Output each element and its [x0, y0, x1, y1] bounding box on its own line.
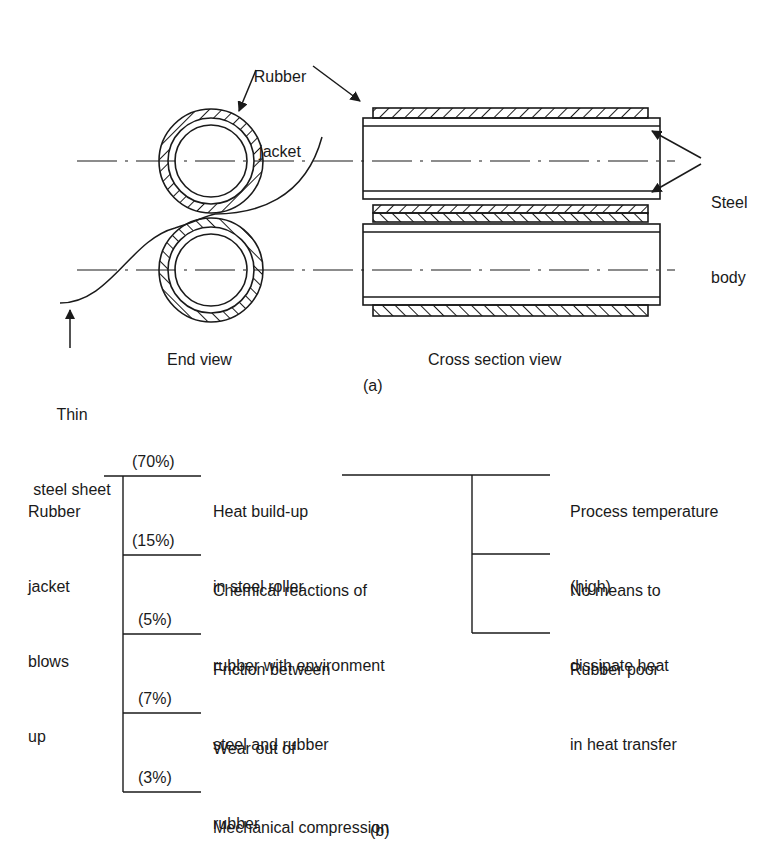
cause-pct-4: (7%) — [138, 686, 172, 711]
label-line: up — [28, 724, 80, 749]
label-line: Thin — [22, 402, 122, 427]
label-line: Chemical reactions of — [213, 578, 385, 603]
steel-body-upper — [363, 118, 660, 199]
label-line: body — [711, 265, 747, 290]
label-line: in heat transfer — [570, 732, 677, 757]
rubber-strip-top — [373, 108, 648, 118]
cause-pct-1: (70%) — [132, 449, 175, 474]
steel-body-label: Steel body — [711, 140, 747, 315]
label-line: Rubber — [250, 64, 310, 89]
label-line: Friction between — [213, 657, 330, 682]
label-line: Wear out of — [213, 736, 295, 761]
cross-section-view-label: Cross section view — [428, 347, 561, 372]
root-effect-label: Rubber jacket blows up — [28, 449, 80, 774]
rubber-jacket-label: Rubber jacket — [250, 14, 310, 189]
label-line: jacket — [250, 139, 310, 164]
label-line: Process temperature — [570, 499, 719, 524]
figure-b-caption: (b) — [370, 818, 390, 843]
rubber-strip-middle-lower — [373, 213, 648, 222]
arrow-rubber-jacket-section — [313, 66, 360, 101]
label-line: Rubber poor — [570, 657, 677, 682]
label-line: Steel — [711, 190, 747, 215]
cross-section-view — [363, 108, 660, 316]
rubber-strip-middle-upper — [373, 205, 648, 213]
label-line: Heat build-up — [213, 499, 308, 524]
sub-cause-text-3: Rubber poor in heat transfer — [570, 607, 677, 782]
steel-body-lower — [363, 224, 660, 305]
cause-pct-2: (15%) — [132, 528, 175, 553]
label-line: Mechanical compression — [213, 815, 389, 840]
cause-text-5: Mechanical compression forces on rubber — [213, 765, 389, 854]
cause-pct-5: (3%) — [138, 765, 172, 790]
rubber-strip-bottom — [373, 305, 648, 316]
end-view-label: End view — [167, 347, 232, 372]
label-line: blows — [28, 649, 80, 674]
label-line: jacket — [28, 574, 80, 599]
label-line: No means to — [570, 578, 669, 603]
cause-pct-3: (5%) — [138, 607, 172, 632]
label-line: Rubber — [28, 499, 80, 524]
figure-a-caption: (a) — [363, 373, 383, 398]
